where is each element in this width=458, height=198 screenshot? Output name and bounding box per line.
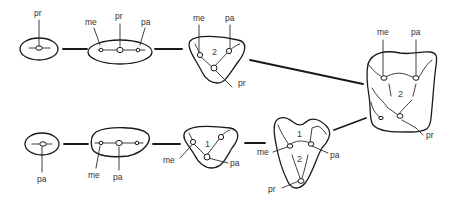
label-pa: pa [113, 172, 123, 182]
label-pa: pa [411, 27, 421, 37]
label-pa: pa [330, 150, 340, 160]
final-crown: 2 me pa pr [367, 27, 437, 140]
connector [250, 60, 363, 84]
cusp-number-2: 2 [297, 154, 302, 164]
label-me: me [163, 155, 175, 165]
label-pa: pa [230, 158, 240, 168]
label-me: me [85, 17, 97, 27]
label-pa: pa [37, 174, 47, 184]
label-pr: pr [34, 8, 42, 18]
label-me: me [88, 170, 100, 180]
label-pr: pr [238, 78, 246, 88]
bottom-stage-3: 1 me pa [163, 126, 240, 168]
label-me: me [257, 147, 269, 157]
cusp-number: 1 [205, 139, 210, 149]
bottom-stage-4: 1 2 me pa pr [257, 118, 340, 194]
cusp-number: 2 [212, 47, 217, 57]
bottom-stage-1: pa [25, 133, 59, 184]
bottom-stage-2: me pa [88, 128, 149, 182]
label-me: me [377, 27, 389, 37]
label-me: me [193, 13, 205, 23]
label-pa: pa [225, 13, 235, 23]
top-stage-3: 2 me pa pr [189, 13, 246, 88]
top-stage-2: me pr pa [85, 11, 152, 64]
label-pa: pa [141, 17, 151, 27]
cusp-number-1: 1 [297, 129, 302, 139]
label-pr: pr [426, 130, 434, 140]
top-stage-1: pr [20, 8, 58, 60]
connector [334, 118, 366, 130]
cusp-number: 2 [398, 89, 403, 99]
label-pr: pr [115, 11, 123, 21]
label-pr: pr [268, 184, 276, 194]
tooth-cusp-evolution-diagram: pr me pr pa 2 me pa pr [0, 0, 458, 198]
